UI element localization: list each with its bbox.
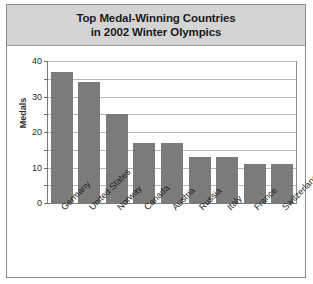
chart-title: Top Medal-Winning Countries in 2002 Wint… <box>7 5 305 46</box>
y-axis-tick-label: 10 <box>32 163 42 173</box>
chart-figure: Top Medal-Winning Countries in 2002 Wint… <box>0 0 313 284</box>
chart-title-line-1: Top Medal-Winning Countries <box>76 11 235 25</box>
y-axis-tick-label: 30 <box>32 92 42 102</box>
y-axis-tick-label: 0 <box>37 198 42 208</box>
x-axis-labels: GermanyUnited StatesNorwayCanadaAustriaR… <box>47 205 299 281</box>
plot-right-border <box>296 61 297 204</box>
y-axis-tick-label: 40 <box>32 56 42 66</box>
y-axis-label: Medals <box>18 83 28 143</box>
y-axis-tick <box>44 203 48 204</box>
bar <box>51 72 73 203</box>
chart-title-line-2: in 2002 Winter Olympics <box>91 25 222 39</box>
y-axis-tick-label: 20 <box>32 127 42 137</box>
